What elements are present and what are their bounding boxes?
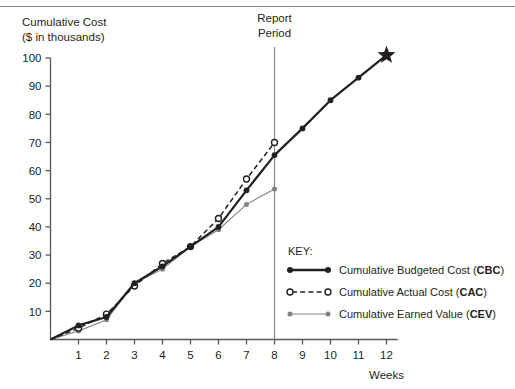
legend-entry-cev: Cumulative Earned Value (CEV) — [288, 308, 496, 320]
series-marker-cbc — [132, 280, 138, 286]
y-axis-tick-label-20: 20 — [29, 277, 42, 289]
legend-swatch-marker — [326, 312, 331, 317]
legend-label-tail: ) — [492, 308, 496, 320]
x-axis-tick-label-9: 9 — [299, 349, 305, 361]
series-marker-cev — [272, 186, 277, 191]
series-marker-cac — [244, 176, 250, 182]
y-axis-tick-label-100: 100 — [22, 52, 41, 64]
legend-entry-cbc: Cumulative Budgeted Cost (CBC) — [287, 264, 504, 276]
report-period-label-line2: Period — [258, 27, 291, 39]
legend-swatch-marker — [287, 267, 293, 273]
y-axis-tick-label-50: 50 — [29, 193, 42, 205]
y-axis-tick-label-10: 10 — [29, 306, 42, 318]
x-axis-tick-label-4: 4 — [159, 349, 166, 361]
series-marker-cbc — [160, 263, 166, 269]
x-axis-tick-label-6: 6 — [215, 349, 221, 361]
legend-swatch-marker — [288, 312, 293, 317]
legend-label-tail: ) — [500, 264, 504, 276]
x-axis-tick-label-7: 7 — [243, 349, 249, 361]
x-axis-tick-label-3: 3 — [131, 349, 137, 361]
series-marker-cbc — [244, 187, 250, 193]
y-axis-title-line2: ($ in thousands) — [22, 31, 105, 43]
x-axis-tick-label-10: 10 — [324, 349, 337, 361]
legend-label-tail: ) — [483, 286, 487, 298]
series-marker-cbc — [300, 125, 306, 131]
y-axis-tick-label-30: 30 — [29, 249, 42, 261]
legend-label-abbr: CAC — [459, 286, 483, 298]
x-axis-tick-label-12: 12 — [380, 349, 393, 361]
legend-entry-label: Cumulative Actual Cost (CAC) — [339, 286, 487, 298]
series-marker-cbc — [328, 97, 334, 103]
y-axis-title-line1: Cumulative Cost — [22, 16, 107, 28]
x-axis-tick-label-11: 11 — [353, 349, 365, 361]
chart-plot-area: 102030405060708090100123456789101112Cumu… — [0, 0, 515, 389]
x-axis-tick-label-8: 8 — [271, 349, 277, 361]
series-marker-cbc — [76, 323, 82, 329]
legend-title: KEY: — [288, 245, 312, 257]
chart-figure: 102030405060708090100123456789101112Cumu… — [0, 0, 515, 389]
y-axis-tick-label-70: 70 — [29, 137, 42, 149]
y-axis-tick-label-40: 40 — [29, 221, 42, 233]
legend-entry-cac: Cumulative Actual Cost (CAC) — [287, 286, 487, 298]
series-marker-cbc — [104, 314, 110, 320]
legend-label-text: Cumulative Earned Value ( — [339, 308, 470, 320]
legend-swatch-marker — [325, 267, 331, 273]
legend-label-abbr: CBC — [477, 264, 501, 276]
series-marker-cbc — [356, 75, 362, 81]
y-axis-tick-label-60: 60 — [29, 165, 42, 177]
x-axis-tick-label-5: 5 — [187, 349, 193, 361]
report-period-label-line1: Report — [257, 12, 292, 24]
x-axis-tick-label-2: 2 — [103, 349, 109, 361]
x-axis-title: Weeks — [369, 369, 404, 381]
series-marker-cac — [272, 139, 278, 145]
series-marker-cbc — [216, 224, 222, 230]
legend-swatch-marker — [287, 289, 293, 295]
x-axis-tick-label-1: 1 — [75, 349, 81, 361]
series-marker-cbc — [188, 244, 194, 250]
series-line-cbc — [51, 55, 387, 339]
legend-entry-label: Cumulative Earned Value (CEV) — [339, 308, 496, 320]
legend-swatch-marker — [325, 289, 331, 295]
series-marker-cbc — [272, 152, 278, 158]
legend-label-text: Cumulative Budgeted Cost ( — [339, 264, 477, 276]
y-axis-tick-label-90: 90 — [29, 80, 42, 92]
legend-entry-label: Cumulative Budgeted Cost (CBC) — [339, 264, 504, 276]
series-line-cac — [51, 142, 275, 339]
y-axis-tick-label-80: 80 — [29, 109, 42, 121]
legend-label-text: Cumulative Actual Cost ( — [339, 286, 460, 298]
series-marker-cev — [244, 202, 249, 207]
series-marker-cac — [216, 215, 222, 221]
legend-label-abbr: CEV — [470, 308, 493, 320]
